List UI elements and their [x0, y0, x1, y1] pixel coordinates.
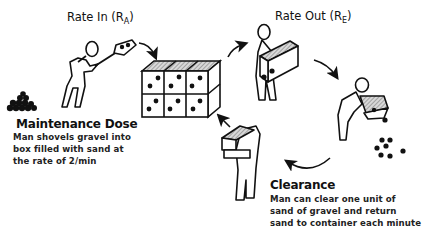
- man-carrying-box-icon: [256, 25, 298, 101]
- scattered-gravel-icon: [374, 117, 405, 158]
- rate-out-label: Rate Out (RE): [275, 9, 352, 25]
- container-box-icon: [142, 61, 220, 117]
- cycle-arrow-icon: [314, 60, 336, 76]
- rate-in-label: Rate In (RA): [67, 10, 134, 26]
- cycle-arrow-icon: [288, 158, 330, 168]
- clearance-heading: Clearance: [270, 178, 335, 192]
- description-line: sand to container each minute: [270, 217, 421, 229]
- man-emptying-box-icon: [338, 78, 388, 140]
- cycle-arrow-icon: [228, 44, 244, 57]
- man-returning-box-icon: [222, 126, 260, 200]
- description-line: sand of gravel and return: [270, 205, 421, 217]
- description-line: the rate of 2/min: [13, 155, 131, 167]
- gravel-pile-icon: [7, 91, 37, 111]
- maintenance-dose-description: Man shovels gravel into box filled with …: [13, 131, 131, 168]
- description-line: Man shovels gravel into: [13, 131, 131, 143]
- maintenance-dose-heading: Maintenance Dose: [16, 117, 137, 131]
- cycle-arrow-icon: [220, 117, 230, 127]
- clearance-description: Man can clear one unit of sand of gravel…: [270, 193, 421, 230]
- man-shoveling-icon: [62, 40, 136, 107]
- cycle-arrow-icon: [139, 43, 155, 56]
- description-line: box filled with sand at: [13, 143, 131, 155]
- description-line: Man can clear one unit of: [270, 193, 421, 205]
